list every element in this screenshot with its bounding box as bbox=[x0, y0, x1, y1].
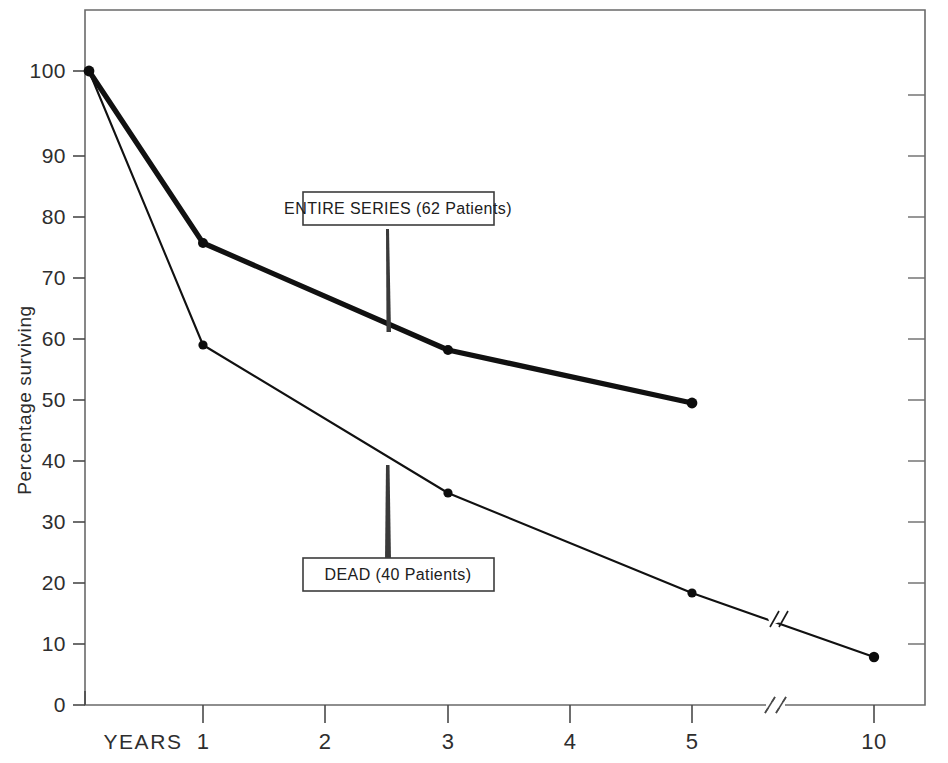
x-tick-label: 4 bbox=[564, 729, 577, 754]
series-entire-line bbox=[89, 71, 692, 403]
series-entire-markers bbox=[84, 66, 698, 409]
data-point bbox=[198, 340, 207, 349]
x-axis-ticks bbox=[85, 691, 874, 723]
y-tick-label: 30 bbox=[42, 510, 66, 533]
y-tick-label: 0 bbox=[54, 693, 66, 716]
y-tick-label: 100 bbox=[29, 59, 66, 82]
annotation-dead-pointer bbox=[385, 465, 391, 560]
annotation-entire-series[interactable]: ENTIRE SERIES (62 Patients) bbox=[284, 192, 512, 332]
y-tick-label: 80 bbox=[42, 205, 66, 228]
y-tick-label: 90 bbox=[42, 144, 66, 167]
frame-border bbox=[85, 10, 925, 705]
series-entire bbox=[84, 66, 698, 409]
annotation-entire-series-label: ENTIRE SERIES (62 Patients) bbox=[284, 200, 512, 217]
y-tick-label: 60 bbox=[42, 327, 66, 350]
data-point bbox=[687, 398, 698, 409]
x-tick-labels: YEARS 1 2 3 4 5 10 bbox=[103, 729, 886, 754]
x-tick-label: 2 bbox=[319, 729, 332, 754]
data-point bbox=[198, 238, 208, 248]
y-tick-label: 70 bbox=[42, 266, 66, 289]
data-point bbox=[869, 652, 879, 662]
chart-canvas: 0 10 20 30 40 50 60 70 80 90 100 Percent… bbox=[0, 0, 948, 763]
y-axis-title: Percentage surviving bbox=[14, 305, 35, 494]
right-axis-ticks bbox=[908, 95, 925, 644]
x-axis-title: YEARS bbox=[103, 730, 182, 753]
x-tick-label: 1 bbox=[197, 729, 210, 754]
data-point bbox=[687, 588, 696, 597]
data-point bbox=[443, 488, 452, 497]
survival-chart-figure: 0 10 20 30 40 50 60 70 80 90 100 Percent… bbox=[0, 0, 948, 763]
annotation-entire-series-pointer bbox=[386, 229, 391, 332]
y-tick-label: 20 bbox=[42, 571, 66, 594]
annotation-dead[interactable]: DEAD (40 Patients) bbox=[303, 465, 494, 591]
annotation-dead-label: DEAD (40 Patients) bbox=[325, 566, 472, 583]
y-axis-ticks bbox=[73, 71, 85, 705]
data-point bbox=[443, 345, 453, 355]
y-tick-label: 10 bbox=[42, 632, 66, 655]
x-tick-label: 10 bbox=[861, 729, 886, 754]
x-tick-label: 5 bbox=[686, 729, 699, 754]
y-tick-label: 40 bbox=[42, 449, 66, 472]
data-point bbox=[84, 66, 95, 77]
y-tick-label: 50 bbox=[42, 388, 66, 411]
x-tick-label: 3 bbox=[442, 729, 455, 754]
plot-frame bbox=[85, 10, 925, 705]
series-dead-break-icon bbox=[766, 607, 788, 627]
x-axis-break-icon bbox=[765, 697, 786, 713]
